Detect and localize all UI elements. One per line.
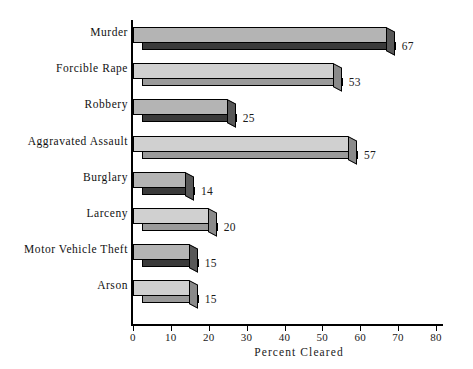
bar-value-label: 53 (349, 76, 361, 88)
bar (133, 280, 199, 306)
bar (133, 63, 343, 89)
bar-top-face (133, 208, 209, 224)
category-label-motor-vehicle-theft: Motor Vehicle Theft (0, 243, 128, 255)
bar-top-face (133, 244, 190, 260)
bar-top-face (133, 280, 190, 296)
bar-value-label: 15 (205, 257, 217, 269)
category-label-burglary: Burglary (0, 171, 128, 183)
category-label-arson: Arson (0, 279, 128, 291)
bar-end-cap (227, 99, 236, 128)
x-axis-tick-label: 20 (194, 331, 224, 343)
category-label-robbery: Robbery (0, 98, 128, 110)
x-axis-line (131, 324, 443, 326)
bar (133, 172, 195, 198)
x-axis-tick-label: 10 (156, 331, 186, 343)
bar-end-cap (386, 27, 395, 56)
bar-chart: 01020304050607080 MurderForcible RapeRob… (0, 0, 473, 369)
bar-end-cap (189, 280, 198, 309)
category-label-forcible-rape: Forcible Rape (0, 62, 128, 74)
x-axis-tick-label: 30 (232, 331, 262, 343)
category-label-murder: Murder (0, 26, 128, 38)
bar-top-face (133, 63, 334, 79)
bar-top-face (133, 172, 186, 188)
bar-end-cap (208, 208, 217, 237)
x-axis-title: Percent Cleared (0, 346, 473, 358)
bar-top-face (133, 136, 349, 152)
bar (133, 136, 358, 162)
plot-area: 01020304050607080 MurderForcible RapeRob… (0, 0, 473, 369)
bar-value-label: 25 (243, 112, 255, 124)
bar-value-label: 20 (224, 221, 236, 233)
bar-end-cap (348, 136, 357, 165)
x-axis-tick-label: 50 (307, 331, 337, 343)
bar-value-label: 57 (364, 149, 376, 161)
bar-front-face (142, 114, 237, 122)
x-axis-tick-label: 80 (421, 331, 451, 343)
bar-end-cap (185, 172, 194, 201)
bar-front-face (142, 42, 396, 50)
bar-front-face (142, 78, 343, 86)
bar (133, 27, 396, 53)
category-label-larceny: Larceny (0, 207, 128, 219)
bar (133, 99, 237, 125)
bar-end-cap (333, 63, 342, 92)
bar-end-cap (189, 244, 198, 273)
x-axis-tick-label: 40 (270, 331, 300, 343)
x-axis-tick-label: 0 (118, 331, 148, 343)
bar-top-face (133, 27, 387, 43)
bar-front-face (142, 151, 358, 159)
x-axis-tick-label: 70 (383, 331, 413, 343)
bar (133, 244, 199, 270)
bar (133, 208, 218, 234)
category-label-aggravated-assault: Aggravated Assault (0, 135, 128, 147)
bar-front-face (142, 223, 218, 231)
bar-value-label: 14 (201, 185, 213, 197)
bar-top-face (133, 99, 228, 115)
x-axis-tick-label: 60 (345, 331, 375, 343)
bar-value-label: 15 (205, 293, 217, 305)
bar-value-label: 67 (402, 40, 414, 52)
x-axis-title-text: Percent Cleared (254, 346, 344, 358)
